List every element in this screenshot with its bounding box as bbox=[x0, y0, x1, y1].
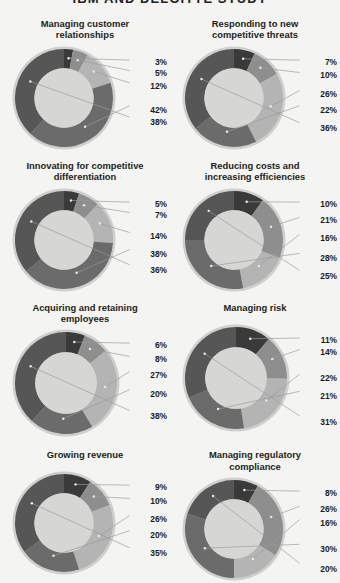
percentage-labels: 6%8%27%20%38% bbox=[134, 327, 168, 431]
percentage-label: 6% bbox=[155, 341, 167, 350]
percentage-labels: 11%14%22%21%31% bbox=[304, 322, 338, 426]
percentage-labels: 5%7%14%38%36% bbox=[134, 186, 168, 290]
percentage-label: 26% bbox=[150, 515, 167, 524]
chart-area: 10%21%16%28%25% bbox=[170, 186, 340, 298]
chart-area: 3%5%12%42%38% bbox=[0, 44, 170, 156]
percentage-label: 28% bbox=[320, 254, 337, 263]
percentage-label: 20% bbox=[150, 390, 167, 399]
chart-title: Responding to new competitive threats bbox=[170, 14, 340, 44]
percentage-label: 30% bbox=[320, 545, 337, 554]
percentage-label: 22% bbox=[320, 106, 337, 115]
chart-cell: Managing regulatory compliance8%26%16%30… bbox=[170, 445, 340, 583]
percentage-label: 14% bbox=[150, 232, 167, 241]
donut-chart bbox=[182, 477, 286, 581]
donut-chart bbox=[12, 471, 116, 575]
percentage-label: 8% bbox=[155, 355, 167, 364]
donut-chart bbox=[12, 46, 116, 150]
percentage-labels: 7%10%26%22%36% bbox=[304, 44, 338, 148]
chart-title: Managing regulatory compliance bbox=[170, 445, 340, 475]
chart-area: 11%14%22%21%31% bbox=[170, 322, 340, 440]
percentage-label: 14% bbox=[320, 348, 337, 357]
chart-cell: Innovating for competitive differentiati… bbox=[0, 156, 170, 298]
percentage-label: 38% bbox=[150, 118, 167, 127]
percentage-label: 27% bbox=[150, 371, 167, 380]
percentage-label: 31% bbox=[320, 418, 337, 427]
percentage-label: 38% bbox=[150, 250, 167, 259]
chart-title: Managing risk bbox=[170, 298, 340, 322]
percentage-label: 22% bbox=[320, 374, 337, 383]
donut-chart bbox=[12, 329, 120, 437]
chart-cell: Acquiring and retaining employees6%8%27%… bbox=[0, 298, 170, 446]
percentage-labels: 8%26%16%30%20% bbox=[304, 475, 338, 579]
percentage-label: 36% bbox=[150, 266, 167, 275]
percentage-label: 26% bbox=[320, 505, 337, 514]
percentage-label: 26% bbox=[320, 90, 337, 99]
percentage-labels: 9%10%26%20%35% bbox=[134, 469, 168, 573]
percentage-label: 36% bbox=[320, 124, 337, 133]
chart-title: Innovating for competitive differentiati… bbox=[0, 156, 170, 186]
percentage-labels: 10%21%16%28%25% bbox=[304, 186, 338, 290]
chart-title: Growing revenue bbox=[0, 445, 170, 469]
chart-title: Acquiring and retaining employees bbox=[0, 298, 170, 328]
chart-grid: Managing customer relationships3%5%12%42… bbox=[0, 14, 340, 583]
chart-area: 5%7%14%38%36% bbox=[0, 186, 170, 298]
chart-area: 8%26%16%30%20% bbox=[170, 475, 340, 583]
percentage-label: 11% bbox=[321, 336, 337, 345]
percentage-label: 8% bbox=[325, 489, 337, 498]
chart-cell: Managing risk11%14%22%21%31% bbox=[170, 298, 340, 446]
percentage-label: 20% bbox=[320, 565, 337, 574]
chart-cell: Growing revenue9%10%26%20%35% bbox=[0, 445, 170, 583]
percentage-label: 12% bbox=[150, 82, 167, 91]
percentage-label: 38% bbox=[150, 412, 167, 421]
percentage-label: 42% bbox=[150, 106, 167, 115]
chart-cell: Managing customer relationships3%5%12%42… bbox=[0, 14, 170, 156]
percentage-label: 21% bbox=[320, 216, 337, 225]
chart-area: 6%8%27%20%38% bbox=[0, 327, 170, 445]
chart-cell: Responding to new competitive threats7%1… bbox=[170, 14, 340, 156]
percentage-label: 16% bbox=[320, 519, 337, 528]
percentage-label: 10% bbox=[150, 497, 167, 506]
percentage-label: 10% bbox=[320, 200, 337, 209]
donut-chart bbox=[182, 188, 286, 292]
percentage-label: 7% bbox=[155, 211, 167, 220]
page-title: IBM AND DELOITTE STUDY bbox=[0, 0, 340, 6]
percentage-label: 25% bbox=[320, 272, 337, 281]
chart-area: 7%10%26%22%36% bbox=[170, 44, 340, 156]
percentage-label: 5% bbox=[155, 200, 167, 209]
chart-title: Reducing costs and increasing efficienci… bbox=[170, 156, 340, 186]
donut-chart bbox=[12, 188, 116, 292]
percentage-label: 20% bbox=[150, 531, 167, 540]
percentage-label: 9% bbox=[155, 483, 167, 492]
percentage-label: 7% bbox=[325, 58, 337, 67]
percentage-labels: 3%5%12%42%38% bbox=[134, 44, 168, 148]
percentage-label: 16% bbox=[320, 234, 337, 243]
chart-title: Managing customer relationships bbox=[0, 14, 170, 44]
chart-area: 9%10%26%20%35% bbox=[0, 469, 170, 581]
percentage-label: 10% bbox=[320, 71, 337, 80]
chart-cell: Reducing costs and increasing efficienci… bbox=[170, 156, 340, 298]
percentage-label: 5% bbox=[155, 69, 167, 78]
percentage-label: 21% bbox=[320, 392, 337, 401]
percentage-label: 35% bbox=[150, 549, 167, 558]
donut-chart bbox=[182, 324, 290, 432]
donut-chart bbox=[182, 46, 286, 150]
percentage-label: 3% bbox=[155, 58, 167, 67]
